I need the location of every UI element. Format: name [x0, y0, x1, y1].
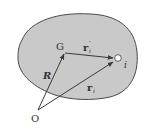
- label-particle-i: i: [124, 60, 127, 70]
- label-r-prime-subscript: i: [89, 47, 91, 54]
- label-r-subscript: i: [93, 87, 95, 94]
- label-vector-R: R: [42, 70, 51, 81]
- label-origin-O: O: [31, 113, 39, 124]
- label-center-of-mass-G: G: [56, 41, 64, 52]
- particle-i-marker: [115, 55, 122, 62]
- rigid-body-diagram: G O i R r i ′ r i: [0, 0, 148, 133]
- label-vector-r-i-prime: r i ′: [83, 40, 91, 54]
